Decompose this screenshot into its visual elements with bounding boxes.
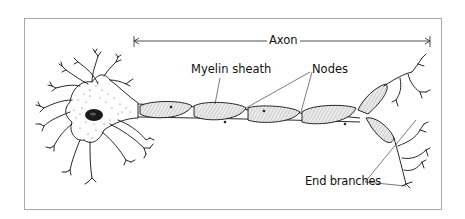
node-leader-line-1 [246, 72, 310, 108]
label-axon: Axon [267, 35, 300, 47]
neuron-illustration [0, 0, 465, 219]
label-end-branches: End branches [305, 176, 381, 188]
label-myelin-sheath: Myelin sheath [191, 64, 271, 76]
myelin-sheath-segments [140, 84, 394, 143]
label-nodes: Nodes [312, 64, 348, 76]
end-branches [384, 54, 430, 188]
node-leader-line-2 [301, 72, 312, 112]
myelin-leader-line [215, 78, 220, 104]
